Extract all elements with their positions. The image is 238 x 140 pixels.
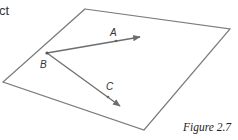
ray-ba <box>47 37 140 53</box>
label-b: B <box>40 59 47 70</box>
figure-caption: Figure 2.7 <box>183 121 231 133</box>
label-c: C <box>106 81 114 92</box>
point-c <box>107 96 110 99</box>
ray-bc <box>47 53 120 106</box>
label-a: A <box>109 27 117 38</box>
point-a <box>115 40 118 43</box>
point-b <box>45 51 48 54</box>
geometry-figure: A B C <box>0 0 238 140</box>
